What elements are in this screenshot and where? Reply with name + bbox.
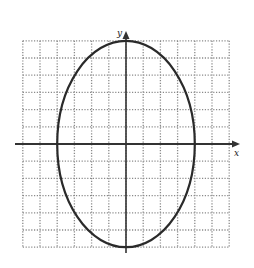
ellipse-graph: x y	[0, 0, 254, 268]
y-axis-arrow-icon	[123, 31, 130, 39]
y-axis-label: y	[116, 28, 123, 38]
axes: x y	[15, 28, 240, 253]
x-axis-label: x	[234, 148, 239, 158]
x-axis-arrow-icon	[232, 141, 240, 148]
